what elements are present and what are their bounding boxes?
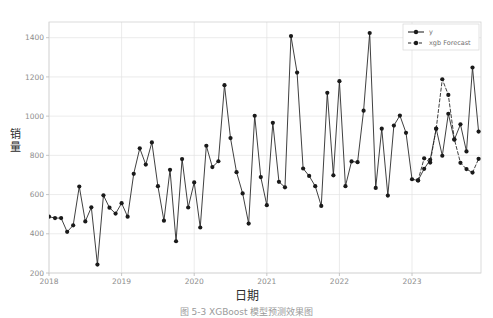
data-point-marker [446,112,450,116]
data-point-marker [398,113,402,117]
data-point-marker [283,185,287,189]
data-point-marker [265,203,269,207]
data-point-marker [77,184,81,188]
data-point-marker [192,180,196,184]
legend-marker-swatch [414,41,418,45]
x-tick-label: 2020 [185,277,204,286]
y-axis-title: 销 量 [6,128,24,154]
data-point-marker [59,216,63,220]
data-point-marker [295,70,299,74]
x-axis-ticks: 201820192020202120222023 [39,273,421,286]
data-point-marker [71,223,75,227]
data-point-marker [204,144,208,148]
data-point-marker [120,201,124,205]
y-tick-label: 400 [30,229,45,238]
data-point-marker [325,91,329,95]
y-axis-title-char-1: 销 [6,128,24,141]
data-point-marker [446,93,450,97]
data-point-marker [349,159,353,163]
data-point-marker [156,184,160,188]
data-point-marker [222,83,226,87]
data-point-marker [83,219,87,223]
data-point-marker [434,127,438,131]
data-point-marker [362,109,366,113]
data-point-marker [410,177,414,181]
data-point-marker [380,127,384,131]
data-point-marker [126,215,130,219]
x-tick-label: 2023 [402,277,421,286]
data-point-marker [386,193,390,197]
data-point-marker [440,77,444,81]
data-point-marker [234,170,238,174]
data-point-marker [277,180,281,184]
data-point-marker [180,157,184,161]
x-tick-label: 2021 [257,277,276,286]
data-point-marker [477,157,481,161]
data-point-marker [174,239,178,243]
data-point-marker [150,140,154,144]
data-point-marker [428,161,432,165]
data-point-marker [368,31,372,35]
x-tick-label: 2022 [330,277,349,286]
data-point-marker [313,184,317,188]
data-point-marker [392,123,396,127]
data-point-marker [132,172,136,176]
data-point-marker [331,173,335,177]
data-point-marker [228,136,232,140]
data-point-marker [186,205,190,209]
data-point-marker [101,193,105,197]
y-tick-label: 800 [30,151,45,160]
data-point-marker [144,162,148,166]
data-point-marker [47,215,51,219]
data-point-marker [464,149,468,153]
data-point-marker [422,167,426,171]
data-point-marker [162,219,166,223]
data-point-marker [210,165,214,169]
data-point-marker [458,122,462,126]
data-point-marker [53,216,57,220]
data-point-marker [168,168,172,172]
x-axis-title: 日期 [0,286,493,303]
data-point-marker [138,146,142,150]
y-tick-label: 1200 [25,73,44,82]
data-point-marker [477,130,481,134]
data-point-marker [89,205,93,209]
data-point-marker [95,262,99,266]
data-point-marker [470,171,474,175]
x-tick-label: 2018 [39,277,58,286]
data-point-marker [65,230,69,234]
data-point-marker [422,156,426,160]
data-point-marker [343,184,347,188]
data-point-marker [470,65,474,69]
data-point-marker [271,121,275,125]
data-point-marker [253,114,257,118]
y-axis-title-char-2: 量 [6,141,24,154]
data-point-marker [452,137,456,141]
x-tick-label: 2019 [112,277,131,286]
data-point-marker [355,160,359,164]
y-axis-ticks: 200400600800100012001400 [25,33,49,277]
figure-caption: 图 5-3 XGBoost 模型预测效果图 [0,305,493,318]
legend: yxgb Forecast [403,24,479,50]
legend-marker-swatch [414,30,418,34]
data-point-marker [374,186,378,190]
y-tick-label: 1400 [25,33,44,42]
data-point-marker [216,159,220,163]
data-point-marker [198,225,202,229]
data-point-marker [107,206,111,210]
data-point-marker [319,204,323,208]
legend-label: xgb Forecast [429,39,471,47]
data-point-marker [464,167,468,171]
data-point-marker [301,166,305,170]
data-point-marker [113,211,117,215]
data-point-marker [247,221,251,225]
data-point-marker [289,34,293,38]
data-point-marker [259,175,263,179]
y-tick-label: 600 [30,190,45,199]
legend-label: y [429,28,433,36]
data-point-marker [416,178,420,182]
y-tick-label: 1000 [25,112,44,121]
data-point-marker [241,191,245,195]
